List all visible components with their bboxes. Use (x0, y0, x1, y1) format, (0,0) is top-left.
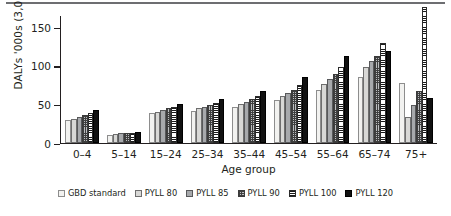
x-tick-label: 35–44 (228, 148, 270, 160)
bar-group (228, 16, 270, 143)
bar (135, 132, 141, 143)
x-tick-label: 45–54 (270, 148, 312, 160)
bar-group (187, 16, 229, 143)
y-tick-label: 50 (38, 99, 51, 111)
legend-label: PYLL 85 (196, 188, 228, 198)
bar (219, 99, 225, 142)
x-tick-label: 5–14 (103, 148, 145, 160)
bar-group (145, 16, 187, 143)
y-tick-mark (54, 144, 60, 145)
legend-item[interactable]: GBD standard (58, 188, 126, 198)
x-tick-label: 15–24 (145, 148, 187, 160)
legend-item[interactable]: PYLL 120 (345, 188, 393, 198)
legend-label: PYLL 90 (248, 188, 280, 198)
bar-group (312, 16, 354, 143)
bar (344, 56, 350, 143)
bar (93, 110, 99, 143)
x-tick-label: 0–4 (61, 148, 103, 160)
bar-group (354, 16, 396, 143)
bar (177, 104, 183, 143)
y-tick-mark (54, 28, 60, 29)
y-tick-mark (54, 105, 60, 106)
legend-item[interactable]: PYLL 85 (186, 188, 228, 198)
bar-group (61, 16, 103, 143)
legend-swatch-icon (345, 190, 352, 197)
y-tick-label: 150 (31, 22, 51, 34)
legend-swatch-icon (238, 190, 245, 197)
x-tick-label: 65–74 (354, 148, 396, 160)
bar (427, 98, 433, 142)
bar (260, 91, 266, 143)
y-axis-title: DALYs '000s (3,0) (12, 0, 24, 113)
legend-label: GBD standard (68, 188, 126, 198)
y-tick-label: 100 (31, 60, 51, 72)
x-axis-tick-labels: 0–45–1415–2425–3435–4445–5455–6465–7475+ (61, 148, 437, 160)
bar-group (395, 16, 437, 143)
bar (386, 51, 392, 143)
y-tick-mark (54, 66, 60, 67)
plot-area: 050100150 (60, 16, 437, 144)
legend-label: PYLL 80 (145, 188, 177, 198)
chart-figure: DALYs '000s (3,0) 050100150 0–45–1415–24… (0, 0, 451, 216)
x-axis-line (60, 143, 437, 144)
legend-swatch-icon (135, 190, 142, 197)
legend-swatch-icon (186, 190, 193, 197)
x-tick-label: 25–34 (187, 148, 229, 160)
legend-label: PYLL 120 (355, 188, 393, 198)
legend-swatch-icon (289, 190, 296, 197)
x-axis-title: Age group (60, 163, 437, 175)
x-tick-label: 55–64 (312, 148, 354, 160)
bar-group (103, 16, 145, 143)
bar-groups (61, 16, 437, 143)
y-tick-label: 0 (44, 138, 51, 150)
bar (302, 77, 308, 142)
chart-legend: GBD standardPYLL 80PYLL 85PYLL 90PYLL 10… (0, 188, 451, 198)
legend-swatch-icon (58, 190, 65, 197)
x-tick-label: 75+ (395, 148, 437, 160)
header-rule (6, 2, 445, 4)
legend-label: PYLL 100 (299, 188, 337, 198)
bar-group (270, 16, 312, 143)
legend-item[interactable]: PYLL 100 (289, 188, 337, 198)
legend-item[interactable]: PYLL 90 (238, 188, 280, 198)
legend-item[interactable]: PYLL 80 (135, 188, 177, 198)
